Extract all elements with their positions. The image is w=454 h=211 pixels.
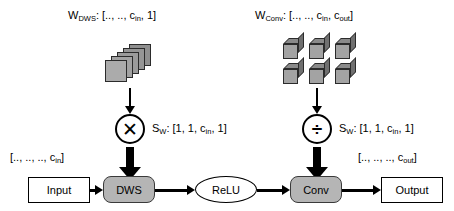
cube <box>335 63 355 83</box>
stacked-squares-icon <box>105 44 155 86</box>
cube <box>309 63 329 83</box>
node-output-label: Output <box>395 184 428 196</box>
node-dws-label: DWS <box>116 184 142 196</box>
node-conv-label: Conv <box>303 184 329 196</box>
w-conv-tensor-label: WConv: [.., .., cin, cout] <box>255 10 353 21</box>
scale-dws-label: SW: [1, 1, cin, 1] <box>152 123 227 134</box>
multiply-glyph: ✕ <box>117 116 143 142</box>
cube <box>283 38 303 58</box>
node-output[interactable]: Output <box>381 177 443 203</box>
arrow-dws-weights-to-multiply <box>124 88 136 114</box>
cube <box>335 38 355 58</box>
divide-icon: ÷ <box>302 114 332 144</box>
cube-grid-icon <box>283 38 359 88</box>
connector-relu-to-conv <box>257 185 290 195</box>
cube <box>283 63 303 83</box>
connector-input-to-dws <box>90 185 103 195</box>
node-dws[interactable]: DWS <box>103 176 155 203</box>
cube <box>309 38 329 58</box>
connector-conv-to-output <box>342 185 381 195</box>
divide-glyph: ÷ <box>304 116 330 142</box>
node-conv[interactable]: Conv <box>290 176 342 203</box>
node-input-label: Input <box>47 184 71 196</box>
multiply-icon: ✕ <box>115 114 145 144</box>
connector-dws-to-relu <box>155 185 195 195</box>
arrow-conv-weights-to-divide <box>311 88 323 114</box>
input-shape-label: [.., .., .., cin] <box>10 152 64 163</box>
node-input[interactable]: Input <box>28 177 90 203</box>
node-relu[interactable]: ReLU <box>195 176 257 203</box>
scale-conv-label: SW: [1, 1, cin, 1] <box>339 123 414 134</box>
dws-conv-architecture-diagram: WDWS: [.., .., cin, 1] WConv: [.., .., c… <box>0 0 454 211</box>
filter-square <box>105 60 127 82</box>
node-relu-label: ReLU <box>212 184 240 196</box>
output-shape-label: [.., .., .., cout] <box>358 152 417 163</box>
w-dws-tensor-label: WDWS: [.., .., cin, 1] <box>68 10 156 21</box>
